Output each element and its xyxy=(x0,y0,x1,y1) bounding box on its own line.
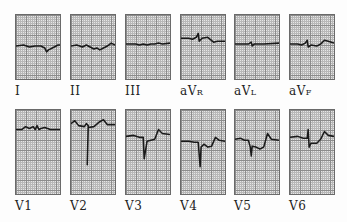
lead-i: I xyxy=(15,14,61,102)
ecg-trace xyxy=(181,15,225,79)
lead-v2: V2 xyxy=(70,109,116,217)
lead-label: II xyxy=(70,84,80,98)
ecg-grid-strip xyxy=(289,14,335,80)
ecg-trace xyxy=(235,15,279,79)
lead-ii: II xyxy=(70,14,116,102)
ecg-grid-strip xyxy=(289,109,335,195)
ecg-grid-strip xyxy=(125,109,171,195)
lead-label-sub: 6 xyxy=(298,199,306,213)
ecg-trace xyxy=(126,110,170,194)
lead-label: III xyxy=(125,84,141,98)
lead-label: V2 xyxy=(70,199,87,213)
ecg-grid-strip xyxy=(180,109,226,195)
lead-v3: V3 xyxy=(125,109,171,217)
ecg-grid-strip xyxy=(234,109,280,195)
lead-avr: aVR xyxy=(180,14,226,102)
lead-label-sub: 3 xyxy=(134,199,142,213)
lead-v1: V1 xyxy=(15,109,61,217)
ecg-grid-strip xyxy=(70,14,116,80)
lead-v6: V6 xyxy=(289,109,335,217)
lead-label-sub: 4 xyxy=(189,199,197,213)
lead-label-base: V xyxy=(70,199,79,213)
ecg-trace xyxy=(71,15,115,79)
lead-label: V6 xyxy=(289,199,306,213)
lead-iii: III xyxy=(125,14,171,102)
lead-label-sub: F xyxy=(306,88,312,97)
lead-label-base: V xyxy=(234,199,243,213)
lead-label-base: aV xyxy=(234,84,251,98)
lead-label-base: III xyxy=(125,84,141,98)
ecg-grid-strip xyxy=(234,14,280,80)
ecg-grid-strip xyxy=(125,14,171,80)
ecg-grid-strip xyxy=(15,14,61,80)
ecg-grid-strip xyxy=(15,109,61,195)
ecg-trace xyxy=(16,15,60,79)
ecg-trace xyxy=(126,15,170,79)
lead-avl: aVL xyxy=(234,14,280,102)
lead-label: V1 xyxy=(15,199,32,213)
ecg-trace xyxy=(290,110,334,194)
lead-label: I xyxy=(15,84,20,98)
lead-label: aVR xyxy=(180,84,203,98)
ecg-trace xyxy=(290,15,334,79)
ecg-trace xyxy=(16,110,60,194)
lead-label-sub: R xyxy=(197,88,204,97)
lead-label-sub: 5 xyxy=(243,199,251,213)
ecg-trace xyxy=(181,110,225,194)
lead-avf: aVF xyxy=(289,14,335,102)
lead-label-sub: 2 xyxy=(79,199,87,213)
ecg-grid-strip xyxy=(70,109,116,195)
ecg-grid-strip xyxy=(180,14,226,80)
lead-label-base: II xyxy=(70,84,80,98)
lead-label: V5 xyxy=(234,199,251,213)
lead-label: aVL xyxy=(234,84,257,98)
ecg-trace xyxy=(71,110,115,194)
ecg-trace xyxy=(235,110,279,194)
lead-label-base: V xyxy=(15,199,24,213)
lead-v5: V5 xyxy=(234,109,280,217)
lead-label-sub: 1 xyxy=(24,199,32,213)
lead-label: V3 xyxy=(125,199,142,213)
lead-label-base: V xyxy=(180,199,189,213)
lead-label-base: aV xyxy=(180,84,197,98)
lead-label-base: I xyxy=(15,84,20,98)
lead-label: V4 xyxy=(180,199,197,213)
lead-label: aVF xyxy=(289,84,312,98)
lead-v4: V4 xyxy=(180,109,226,217)
lead-label-sub: L xyxy=(251,88,257,97)
lead-label-base: V xyxy=(289,199,298,213)
lead-label-base: aV xyxy=(289,84,306,98)
lead-label-base: V xyxy=(125,199,134,213)
